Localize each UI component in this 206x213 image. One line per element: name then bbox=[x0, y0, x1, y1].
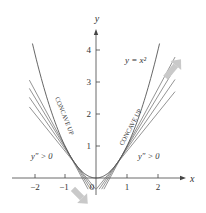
y-axis-label: y bbox=[94, 13, 100, 24]
right-second-derivative-label: y″ > 0 bbox=[137, 151, 160, 161]
curve-label: y = x² bbox=[124, 55, 147, 65]
y-axis-arrow-icon bbox=[94, 29, 98, 35]
tangent-lines bbox=[29, 57, 175, 189]
x-axis-arrow-icon bbox=[180, 176, 186, 180]
y-tick-label: 4 bbox=[87, 45, 92, 55]
y-axis bbox=[94, 29, 98, 195]
x-tick-label: 0 bbox=[90, 182, 95, 192]
concavity-figure: y x −2 −1 0 1 2 1 2 3 4 y = x² CONCAVE U… bbox=[0, 0, 206, 213]
x-tick-label: 2 bbox=[156, 182, 161, 192]
tangent-line bbox=[99, 79, 175, 189]
left-second-derivative-label: y″ > 0 bbox=[30, 151, 53, 161]
y-tick-label: 2 bbox=[87, 109, 92, 119]
tangent-line bbox=[104, 57, 175, 189]
x-tick-label: 1 bbox=[125, 182, 130, 192]
y-tick-label: 1 bbox=[87, 141, 92, 151]
curve-label-text: y = x² bbox=[124, 55, 147, 65]
tangent-line bbox=[96, 92, 175, 190]
x-tick-label: −2 bbox=[30, 182, 40, 192]
plot: y x −2 −1 0 1 2 1 2 3 4 y = x² CONCAVE U… bbox=[0, 0, 206, 213]
x-tick-label: −1 bbox=[59, 182, 69, 192]
y-tick-label: 3 bbox=[87, 77, 92, 87]
tangent-line bbox=[102, 68, 175, 189]
x-axis-label: x bbox=[189, 173, 195, 184]
left-concave-label: CONCAVE UP bbox=[54, 96, 76, 137]
